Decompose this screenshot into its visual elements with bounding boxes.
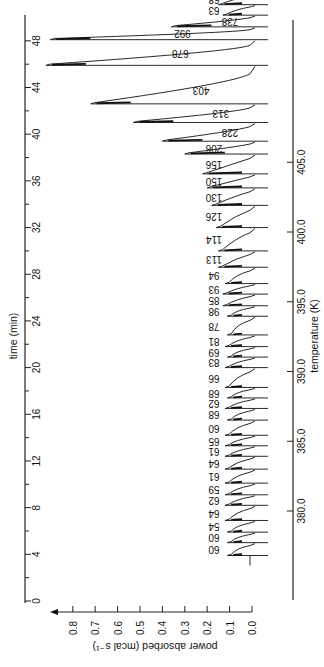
- peak-label: 313: [212, 108, 229, 119]
- peak-label: 130: [205, 192, 222, 203]
- power-tick-label: 0.0: [247, 621, 258, 635]
- peak-shading: [233, 531, 242, 532]
- power-tick-label: 0.5: [135, 621, 146, 635]
- temperature-tick-label: 380.0: [296, 498, 307, 523]
- dsc-chart: 04812162024283236404448 time (min) 0.00.…: [0, 0, 324, 667]
- peak-shading: [224, 266, 242, 267]
- peak-shading: [231, 504, 242, 505]
- peak-shading: [229, 14, 242, 15]
- peak-shading: [231, 386, 242, 387]
- peak-label: 228: [221, 127, 238, 138]
- time-tick-label: 16: [31, 408, 42, 420]
- temperature-axis: 380.0385.0390.0395.0400.0405.0 temperatu…: [287, 20, 320, 600]
- peak-shading: [231, 434, 242, 435]
- peak-trace: [218, 252, 268, 267]
- time-tick-label: 32: [31, 222, 42, 234]
- time-tick-label: 4: [31, 551, 42, 557]
- peak-trace: [227, 409, 268, 420]
- peak-trace: [223, 295, 268, 306]
- peak-trace: [218, 229, 268, 251]
- peak-shading: [56, 38, 90, 39]
- peak-shading: [231, 468, 242, 469]
- peak-shading: [233, 315, 242, 316]
- peak-label: 78: [208, 321, 220, 332]
- peak-label: 403: [192, 85, 209, 96]
- peak-label: 64: [208, 458, 220, 469]
- peak-trace: [225, 506, 268, 520]
- peak-shading: [52, 64, 86, 65]
- peak-trace: [185, 142, 268, 154]
- power-tick-label: 0.3: [180, 621, 191, 635]
- peak-label: 64: [208, 508, 220, 519]
- peak-label: 68: [208, 388, 220, 399]
- peak-label: 156: [205, 159, 222, 170]
- time-tick-label: 24: [31, 315, 42, 327]
- peak-shading: [233, 334, 242, 335]
- peak-label: 98: [208, 306, 220, 317]
- peak-trace: [46, 41, 268, 66]
- power-tick-label: 0.6: [113, 621, 124, 635]
- power-tick-label: 0.1: [225, 621, 236, 635]
- peak-label: 63: [208, 5, 220, 16]
- time-tick-label: 28: [31, 268, 42, 280]
- peak-label: 60: [208, 544, 220, 555]
- peak-label: 678: [172, 48, 189, 59]
- time-tick-label: 40: [31, 128, 42, 140]
- peak-shading: [231, 282, 242, 283]
- peak-shading: [224, 250, 242, 251]
- peak-label: 93: [208, 284, 220, 295]
- peak-shading: [97, 102, 131, 103]
- time-tick-label: 20: [31, 362, 42, 374]
- peak-label: 738: [221, 16, 238, 27]
- temperature-tick-label: 390.0: [296, 359, 307, 384]
- peak-trace: [227, 521, 268, 532]
- peak-label: 61: [208, 471, 220, 482]
- peak-shading: [229, 304, 242, 305]
- peak-shading: [222, 226, 242, 227]
- peak-label: 85: [208, 295, 220, 306]
- peak-shading: [177, 25, 211, 26]
- peak-shading: [231, 519, 242, 520]
- peak-label: 61: [208, 446, 220, 457]
- peak-label: 83: [208, 357, 220, 368]
- power-tick-label: 0.4: [157, 621, 168, 635]
- peak-shading: [231, 407, 242, 408]
- peak-label: 62: [208, 398, 220, 409]
- power-axis-title: power absorbed (mcal s⁻¹): [92, 641, 217, 653]
- power-tick-label: 0.8: [68, 621, 79, 635]
- peak-label: 69: [208, 347, 220, 358]
- time-axis-title: time (min): [7, 313, 19, 360]
- peak-label: 81: [208, 336, 220, 347]
- peak-trace: [225, 457, 268, 469]
- peak-shading: [231, 444, 242, 445]
- time-axis: 04812162024283236404448 time (min): [7, 15, 42, 604]
- power-tick-label: 0.7: [90, 621, 101, 635]
- time-tick-label: 44: [31, 82, 42, 94]
- peak-label: 113: [206, 254, 222, 265]
- peak-shading: [231, 366, 242, 367]
- peak-label: 54: [208, 521, 220, 532]
- time-tick-label: 12: [31, 455, 42, 467]
- power-tick-label: 0.2: [202, 621, 213, 635]
- peak-shading: [224, 3, 242, 4]
- peak-label: 68: [208, 409, 220, 420]
- peak-shading: [229, 293, 242, 294]
- peak-shading: [231, 482, 242, 483]
- peak-trace: [225, 369, 268, 388]
- peak-trace: [227, 317, 268, 335]
- temperature-tick-label: 385.0: [296, 428, 307, 453]
- peak-label: 60: [208, 532, 220, 543]
- peak-label: 150: [205, 176, 222, 187]
- peak-shading: [168, 140, 202, 141]
- peak-trace: [91, 66, 268, 104]
- peak-shading: [231, 455, 242, 456]
- peaks-group: 6060546462596164616560686268668369817898…: [46, 0, 268, 565]
- peak-label: 68: [208, 0, 220, 5]
- peak-trace: [227, 544, 268, 556]
- peak-trace: [216, 206, 268, 227]
- peak-trace: [162, 124, 268, 142]
- peak-label: 126: [205, 211, 222, 222]
- temperature-axis-title: temperature (K): [308, 299, 320, 373]
- peak-shading: [218, 204, 242, 205]
- peak-label: 992: [174, 28, 191, 39]
